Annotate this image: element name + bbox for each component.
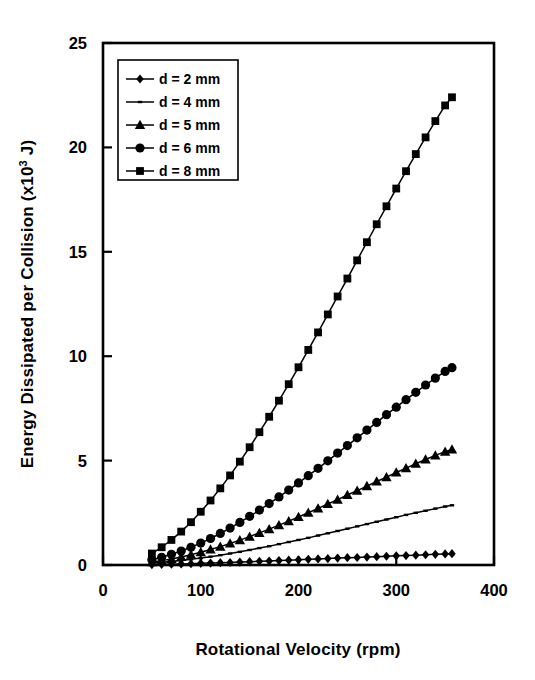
marker-circle xyxy=(157,553,166,562)
y-tick-label: 15 xyxy=(69,243,87,261)
marker-square xyxy=(363,238,371,246)
marker-dash xyxy=(423,510,427,512)
marker-square xyxy=(265,413,273,421)
marker-dash xyxy=(306,537,310,539)
marker-circle xyxy=(235,518,244,527)
marker-circle xyxy=(353,433,362,442)
marker-square xyxy=(275,397,283,405)
marker-square xyxy=(295,363,303,371)
marker-dash xyxy=(267,545,271,547)
marker-square xyxy=(402,167,410,175)
marker-circle xyxy=(294,478,303,487)
marker-circle xyxy=(186,543,195,552)
marker-dash xyxy=(326,532,330,534)
marker-square xyxy=(216,484,224,492)
marker-dash xyxy=(365,523,369,525)
marker-square xyxy=(324,311,332,319)
y-tick-label: 5 xyxy=(78,452,87,470)
marker-square xyxy=(246,443,254,451)
marker-square xyxy=(304,346,312,354)
legend-item-label: d = 5 mm xyxy=(159,117,220,133)
marker-dash xyxy=(228,552,232,554)
y-axis-title: Energy Dissipated per Collision (x103 J) xyxy=(17,140,37,469)
marker-square xyxy=(422,133,430,141)
marker-dash xyxy=(414,512,418,514)
marker-circle xyxy=(372,418,381,427)
marker-dash xyxy=(296,539,300,541)
energy-dissipation-line-chart: 0510152025 0100200300400 Rotational Velo… xyxy=(0,0,535,680)
marker-square xyxy=(256,428,264,436)
x-tick-label: 300 xyxy=(382,581,410,599)
marker-square xyxy=(187,518,195,526)
marker-square xyxy=(177,528,185,536)
marker-circle xyxy=(411,388,420,397)
marker-circle xyxy=(447,363,456,372)
marker-circle xyxy=(135,143,144,152)
marker-circle xyxy=(265,499,274,508)
marker-square xyxy=(314,328,322,336)
x-tick-label: 400 xyxy=(480,581,508,599)
chart-figure: 0510152025 0100200300400 Rotational Velo… xyxy=(0,0,535,680)
y-axis-title-main: Energy Dissipated per Collision (x10 xyxy=(18,166,37,468)
marker-square xyxy=(412,150,420,158)
legend-item-label: d = 8 mm xyxy=(159,163,220,179)
marker-square xyxy=(207,497,215,505)
y-tick-label: 25 xyxy=(69,34,87,52)
marker-circle xyxy=(274,492,283,501)
marker-dash xyxy=(404,514,408,516)
marker-dash xyxy=(335,530,339,532)
y-tick-label: 20 xyxy=(69,138,87,156)
marker-dash xyxy=(238,551,242,553)
chart-legend: d = 2 mmd = 4 mmd = 5 mmd = 6 mmd = 8 mm xyxy=(118,60,238,180)
marker-square xyxy=(392,185,400,193)
marker-circle xyxy=(245,512,254,521)
marker-circle xyxy=(313,464,322,473)
marker-circle xyxy=(333,448,342,457)
legend-item-label: d = 2 mm xyxy=(159,71,220,87)
marker-dash xyxy=(199,557,203,559)
y-axis-tick-labels: 0510152025 xyxy=(69,34,87,574)
marker-circle xyxy=(216,529,225,538)
marker-square xyxy=(285,380,293,388)
marker-circle xyxy=(284,485,293,494)
marker-dash xyxy=(257,547,261,549)
y-tick-label: 10 xyxy=(69,347,87,365)
svg-text:Energy Dissipated per Collisio: Energy Dissipated per Collision (x103 J) xyxy=(17,140,37,469)
x-tick-label: 200 xyxy=(285,581,313,599)
marker-circle xyxy=(382,410,391,419)
marker-square xyxy=(448,93,456,101)
marker-circle xyxy=(343,441,352,450)
marker-square xyxy=(353,256,361,264)
marker-circle xyxy=(304,471,313,480)
legend-item-label: d = 6 mm xyxy=(159,140,220,156)
y-axis-title-tail: J) xyxy=(18,140,37,160)
marker-dash xyxy=(355,525,359,527)
marker-square xyxy=(383,202,391,210)
marker-square xyxy=(226,472,234,480)
x-tick-label: 100 xyxy=(187,581,215,599)
marker-square xyxy=(148,550,156,558)
marker-dash xyxy=(433,507,437,509)
x-axis-title: Rotational Velocity (rpm) xyxy=(195,640,400,659)
marker-circle xyxy=(421,380,430,389)
marker-circle xyxy=(225,523,234,532)
marker-dash xyxy=(277,543,281,545)
y-tick-label: 0 xyxy=(78,556,87,574)
marker-circle xyxy=(177,546,186,555)
marker-circle xyxy=(167,550,176,559)
marker-square xyxy=(197,508,205,516)
marker-circle xyxy=(206,534,215,543)
legend-item-label: d = 4 mm xyxy=(159,94,220,110)
marker-circle xyxy=(392,403,401,412)
marker-square xyxy=(431,117,439,125)
marker-circle xyxy=(431,374,440,383)
marker-dash xyxy=(450,504,454,506)
marker-circle xyxy=(255,505,264,514)
marker-dash xyxy=(138,101,142,103)
marker-square xyxy=(343,275,351,283)
marker-square xyxy=(236,458,244,466)
marker-circle xyxy=(401,395,410,404)
marker-dash xyxy=(316,534,320,536)
marker-dash xyxy=(208,555,212,557)
marker-dash xyxy=(394,516,398,518)
